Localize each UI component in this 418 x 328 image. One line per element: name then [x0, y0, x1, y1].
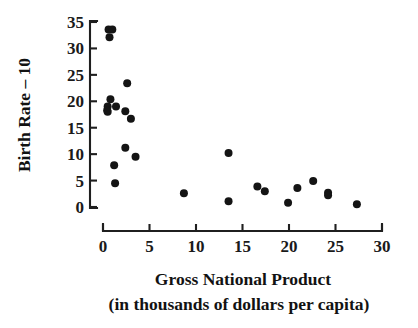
y-tick-label: 20: [67, 92, 84, 111]
x-tick-label: 10: [188, 237, 205, 256]
y-tick-label: 30: [67, 39, 84, 58]
scatter-plot: 05101520253035 051015202530 Birth Rate –…: [0, 0, 418, 328]
y-tick-label: 35: [67, 13, 84, 32]
data-point: [110, 161, 118, 169]
x-tick-label: 20: [281, 237, 298, 256]
y-tick-label: 25: [67, 66, 84, 85]
y-tick-label: 10: [67, 145, 84, 164]
x-axis-title: Gross National Product: [155, 269, 331, 289]
y-tick-label: 0: [76, 198, 85, 217]
data-point: [261, 187, 269, 195]
data-point: [106, 33, 114, 41]
x-tick-label: 30: [374, 237, 391, 256]
data-point: [127, 115, 135, 123]
data-point: [121, 107, 129, 115]
data-point: [225, 149, 233, 157]
x-tick-label: 15: [234, 237, 251, 256]
y-tick-label: 5: [76, 172, 85, 191]
data-point: [112, 103, 120, 111]
data-point: [284, 199, 292, 207]
x-axis-tick-labels: 051015202530: [99, 237, 391, 256]
y-axis-title: Birth Rate – 10: [14, 58, 34, 172]
data-point: [293, 184, 301, 192]
data-point: [309, 177, 317, 185]
data-point: [324, 191, 332, 199]
data-point: [108, 25, 116, 33]
data-point: [106, 95, 114, 103]
data-point: [225, 197, 233, 205]
data-point: [104, 108, 112, 116]
chart-figure: 05101520253035 051015202530 Birth Rate –…: [0, 0, 418, 328]
data-point: [253, 182, 261, 190]
data-point: [353, 200, 361, 208]
y-tick-label: 15: [67, 119, 84, 138]
data-points: [103, 25, 361, 208]
data-point: [180, 189, 188, 197]
x-tick-label: 5: [145, 237, 154, 256]
x-axis-title-units: (in thousands of dollars per capita): [109, 294, 370, 314]
data-point: [111, 179, 119, 187]
x-tick-label: 0: [99, 237, 108, 256]
data-point: [132, 153, 140, 161]
data-point: [123, 79, 131, 87]
y-axis-tick-labels: 05101520253035: [67, 13, 84, 217]
data-point: [121, 144, 129, 152]
x-tick-label: 25: [327, 237, 344, 256]
